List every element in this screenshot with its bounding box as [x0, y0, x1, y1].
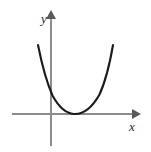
y-axis-label: y — [39, 11, 47, 26]
coordinate-plane-graphic: y x — [0, 0, 151, 152]
x-axis-label: x — [128, 119, 135, 134]
graph-figure: y x — [0, 0, 151, 152]
